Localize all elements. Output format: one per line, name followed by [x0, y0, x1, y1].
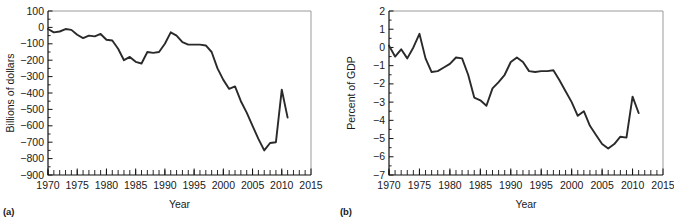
x-axis-tick-label: 1980 [95, 179, 119, 191]
y-axis-tick-label: −400 [20, 87, 44, 99]
y-axis-tick-label: 100 [26, 5, 44, 17]
x-axis-tick-label: 1985 [469, 179, 493, 191]
x-axis-tick-label: 2005 [590, 179, 614, 191]
x-axis-tick-label: 2010 [270, 179, 294, 191]
x-axis-tick-label: 1970 [36, 179, 60, 191]
y-axis-tick-label: −500 [20, 103, 44, 115]
x-axis-tick-label: 1975 [408, 179, 432, 191]
x-axis-tick-label: 2015 [299, 179, 323, 191]
y-axis-tick-label: 0 [379, 41, 385, 53]
x-axis-tick-label: 2010 [621, 179, 645, 191]
x-axis-title: Year [515, 198, 537, 210]
y-axis-tick-label: −300 [20, 70, 44, 82]
y-axis-title: Percent of GDP [345, 56, 357, 130]
x-axis-tick-label: 1980 [438, 179, 462, 191]
y-axis-tick-label: 1 [379, 23, 385, 35]
y-axis-tick-label: −3 [373, 96, 385, 108]
x-axis-tick-label: 1995 [530, 179, 554, 191]
y-axis-tick-label: −600 [20, 119, 44, 131]
x-axis-tick-label: 2005 [241, 179, 265, 191]
data-series-line [48, 29, 288, 150]
x-axis-tick-label: 1990 [153, 179, 177, 191]
figure-container: 1000−100−200−300−400−500−600−700−800−900… [0, 0, 674, 219]
chart-panel-b: 210−1−2−3−4−5−6−719701975198019851990199… [337, 0, 674, 219]
plot-frame-light [389, 11, 663, 175]
x-axis-tick-label: 1970 [377, 179, 401, 191]
x-axis-tick-label: 2015 [651, 179, 674, 191]
plot-frame [389, 11, 663, 175]
y-axis-tick-label: −100 [20, 37, 44, 49]
chart-b-svg: 210−1−2−3−4−5−6−719701975198019851990199… [337, 0, 674, 219]
x-axis-tick-label: 1975 [66, 179, 90, 191]
chart-a-svg: 1000−100−200−300−400−500−600−700−800−900… [0, 0, 337, 219]
x-axis-tick-label: 1985 [124, 179, 148, 191]
y-axis-tick-label: 0 [38, 21, 44, 33]
y-axis-tick-label: −700 [20, 136, 44, 148]
y-axis-tick-label: −6 [373, 150, 385, 162]
x-axis-tick-label: 1995 [182, 179, 206, 191]
panel-label-b: (b) [340, 207, 352, 217]
y-axis-tick-label: −800 [20, 152, 44, 164]
x-axis-tick-label: 2000 [212, 179, 236, 191]
y-axis-tick-label: −4 [373, 114, 385, 126]
y-axis-tick-label: −2 [373, 77, 385, 89]
y-axis-tick-label: −1 [373, 59, 385, 71]
x-axis-tick-label: 1990 [499, 179, 523, 191]
data-series-line [389, 34, 639, 149]
x-axis-tick-label: 2000 [560, 179, 584, 191]
y-axis-tick-label: −5 [373, 132, 385, 144]
x-axis-title: Year [169, 198, 191, 210]
y-axis-tick-label: −200 [20, 54, 44, 66]
y-axis-tick-label: 2 [379, 5, 385, 17]
y-axis-title: Billions of dollars [4, 54, 16, 133]
panel-label-a: (a) [3, 207, 14, 217]
chart-panel-a: 1000−100−200−300−400−500−600−700−800−900… [0, 0, 337, 219]
